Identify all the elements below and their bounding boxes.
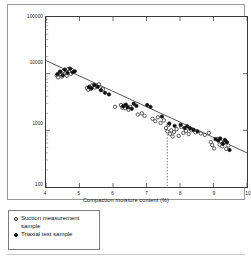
x-tick-label-9: 9	[213, 191, 216, 196]
legend-item-triaxial-test-sample: Triaxial test sample	[13, 231, 96, 239]
bottom-divider	[7, 254, 245, 255]
x-tick-label-4: 4	[44, 191, 47, 196]
x-tick-label-10: 10	[245, 191, 250, 196]
plot-canvas	[46, 17, 247, 187]
legend-box: Suction measurement sample Triaxial test…	[8, 210, 100, 250]
x-tick-label-7: 7	[145, 191, 148, 196]
x-tick-label-5: 5	[77, 191, 80, 196]
y-tick-label-1000: 1000	[13, 121, 43, 126]
legend-item-suction-measurement-sample: Suction measurement sample	[13, 215, 96, 230]
filled-circle-marker-icon	[14, 233, 18, 237]
figure-frame: 100000 10000 1000 100 4 5 6 7 8 9 10 Suc…	[7, 4, 245, 200]
legend-label-triaxial-test-sample: Triaxial test sample	[21, 231, 72, 239]
open-circle-marker-icon	[14, 217, 18, 221]
y-tick-label-100000: 100000	[13, 14, 43, 19]
x-tick-label-8: 8	[179, 191, 182, 196]
y-tick-label-100: 100	[13, 182, 43, 187]
legend-label-suction-measurement-sample: Suction measurement sample	[21, 215, 96, 230]
plot-area	[45, 16, 248, 188]
y-tick-label-10000: 10000	[13, 60, 43, 65]
x-axis-title: Compaction moisture content (%)	[8, 197, 244, 203]
x-tick-label-6: 6	[111, 191, 114, 196]
